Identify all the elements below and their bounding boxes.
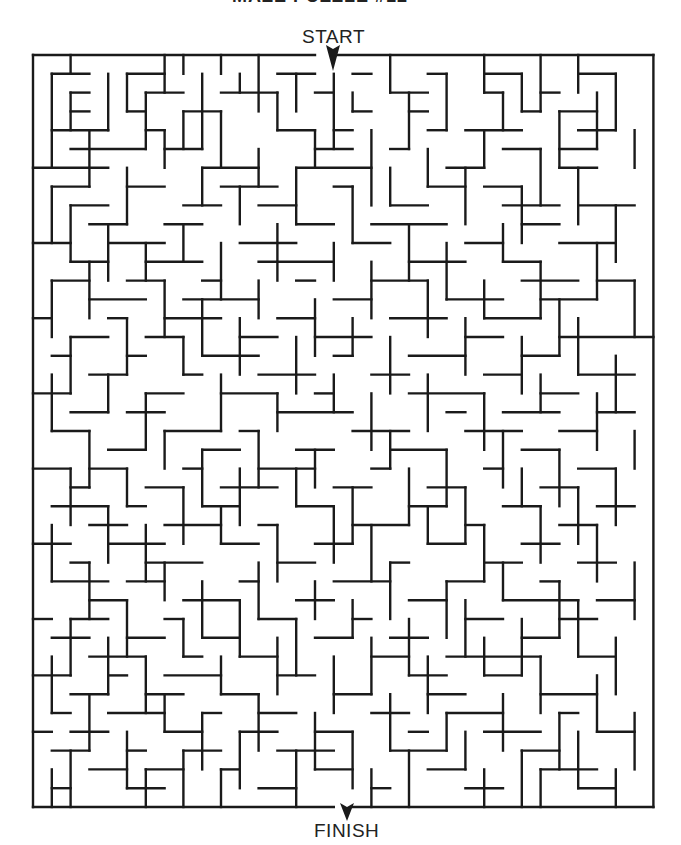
maze-board[interactable] [0, 0, 681, 845]
start-arrow-icon [326, 45, 340, 71]
maze-walls [33, 55, 653, 807]
finish-arrow-icon [340, 803, 354, 821]
